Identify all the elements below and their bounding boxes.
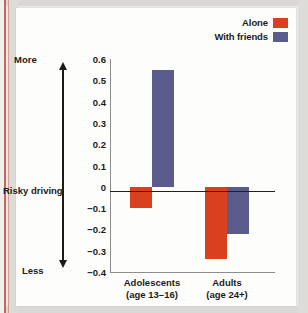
y-tick-label: 0.6 xyxy=(80,54,106,65)
y-axis-line xyxy=(110,59,111,273)
y-tick-label: 0.2 xyxy=(80,139,106,150)
x-category-sublabel: (age 24+) xyxy=(181,289,273,301)
y-axis-title: Risky driving xyxy=(3,185,63,196)
arrow-head-down-icon xyxy=(59,260,67,268)
y-tick-label: −0.4 xyxy=(80,267,106,278)
y-tick-label: 0.4 xyxy=(80,96,106,107)
page-background: Alone With friends More Less Risky drivi… xyxy=(0,0,308,313)
y-tick-label: −0.1 xyxy=(80,203,106,214)
bar-adolescents-with-friends xyxy=(152,70,174,187)
y-tick-label: 0.3 xyxy=(80,117,106,128)
y-tick-label: −0.2 xyxy=(80,224,106,235)
y-tick-label: 0.1 xyxy=(80,160,106,171)
y-tick-label: 0 xyxy=(80,181,106,192)
risky-driving-direction-arrow-icon xyxy=(62,62,64,268)
plot-area: More Less Risky driving 0.60.50.40.30.20… xyxy=(0,0,308,313)
arrow-shaft xyxy=(62,68,64,262)
x-category-name: Adolescents xyxy=(124,277,181,288)
y-axis-tick-labels: 0.60.50.40.30.20.10−0.1−0.2−0.3−0.4 xyxy=(78,0,106,313)
axis-label-more: More xyxy=(14,54,37,65)
zero-baseline xyxy=(110,191,275,192)
y-tick-label: −0.3 xyxy=(80,245,106,256)
bar-adults-with-friends xyxy=(227,187,249,234)
y-tick-label: 0.5 xyxy=(80,75,106,86)
bar-adults-alone xyxy=(205,187,227,259)
x-category-label: Adults(age 24+) xyxy=(181,277,273,301)
bar-adolescents-alone xyxy=(130,187,152,208)
axis-label-less: Less xyxy=(22,265,44,276)
x-category-name: Adults xyxy=(212,277,242,288)
x-axis-line xyxy=(110,272,275,273)
